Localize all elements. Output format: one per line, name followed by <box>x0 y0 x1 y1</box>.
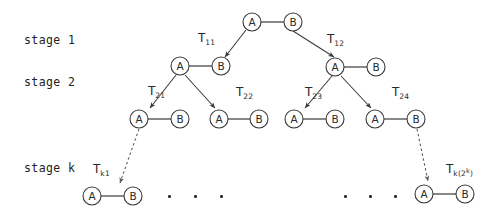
node-b-label: B <box>461 188 468 200</box>
node-pair-stage3-3: A B <box>285 110 344 128</box>
ellipsis-dot <box>369 195 372 198</box>
transition-label-t21: T21 <box>148 85 165 97</box>
stage-label-1: stage 1 <box>24 33 75 47</box>
arrow-t11 <box>225 30 246 57</box>
transition-label-t11: T11 <box>198 32 215 44</box>
ellipsis-dot <box>194 195 197 198</box>
node-b-label: B <box>129 190 136 202</box>
node-b-label: B <box>217 60 224 72</box>
node-pair-stagek-left: A B <box>83 187 142 205</box>
node-a-label: A <box>215 113 223 125</box>
transition-label-t12: T12 <box>327 33 344 45</box>
node-a-label: A <box>331 61 339 73</box>
arrow-t22 <box>185 75 215 108</box>
transition-label-tk1: Tk1 <box>93 163 110 175</box>
transition-sub-tail: ) <box>470 169 473 178</box>
transition-sub: 12 <box>334 39 344 48</box>
stage-label-2: stage 2 <box>24 75 75 89</box>
transition-sub: 11 <box>205 38 215 47</box>
stage-label-k: stage k <box>24 161 75 175</box>
node-pair-stage3-2: A B <box>210 110 268 128</box>
node-pair-stage3-1: A B <box>130 110 189 128</box>
node-b-label: B <box>372 61 379 73</box>
transition-sub: 24 <box>399 92 409 101</box>
arrow-tk2k-dashed <box>417 129 428 181</box>
node-pair-stagek-right: A B <box>415 185 474 203</box>
transition-label-t22: T22 <box>236 86 253 98</box>
node-b-label: B <box>412 113 419 125</box>
transition-label-t24: T24 <box>392 86 409 98</box>
node-b-label: B <box>176 113 183 125</box>
transition-label-t23: T23 <box>305 86 322 98</box>
transition-sub: k1 <box>100 169 110 178</box>
node-pair-stage2-right: A B <box>326 58 385 76</box>
node-a-label: A <box>176 60 184 72</box>
node-b-label: B <box>331 113 338 125</box>
transition-sub: k(2k) <box>453 169 473 178</box>
ellipsis-dot <box>344 195 347 198</box>
transition-label-tk2k: Tk(2k) <box>446 163 473 175</box>
transition-sub-text: k(2 <box>453 169 466 178</box>
node-a-label: A <box>135 113 143 125</box>
diagram-canvas: A B A B A B A B A <box>0 0 497 218</box>
transition-sub: 21 <box>155 91 165 100</box>
node-a-label: A <box>290 113 298 125</box>
ellipsis-dot <box>394 195 397 198</box>
node-a-label: A <box>248 16 256 28</box>
arrow-tk1-dashed <box>120 129 139 183</box>
node-b-label: B <box>289 16 296 28</box>
ellipsis-dot <box>220 195 223 198</box>
node-pair-stage2-left: A B <box>171 57 230 75</box>
node-a-label: A <box>371 113 379 125</box>
node-pair-root: A B <box>243 13 302 31</box>
node-a-label: A <box>420 188 428 200</box>
ellipsis-dot <box>168 195 171 198</box>
transition-sub: 23 <box>312 92 322 101</box>
node-a-label: A <box>88 190 96 202</box>
transition-sub-exponent: k <box>466 167 470 175</box>
node-b-label: B <box>255 113 262 125</box>
arrow-t24 <box>341 76 371 108</box>
transition-sub: 22 <box>243 92 253 101</box>
node-pair-stage3-4: A B <box>366 110 425 128</box>
